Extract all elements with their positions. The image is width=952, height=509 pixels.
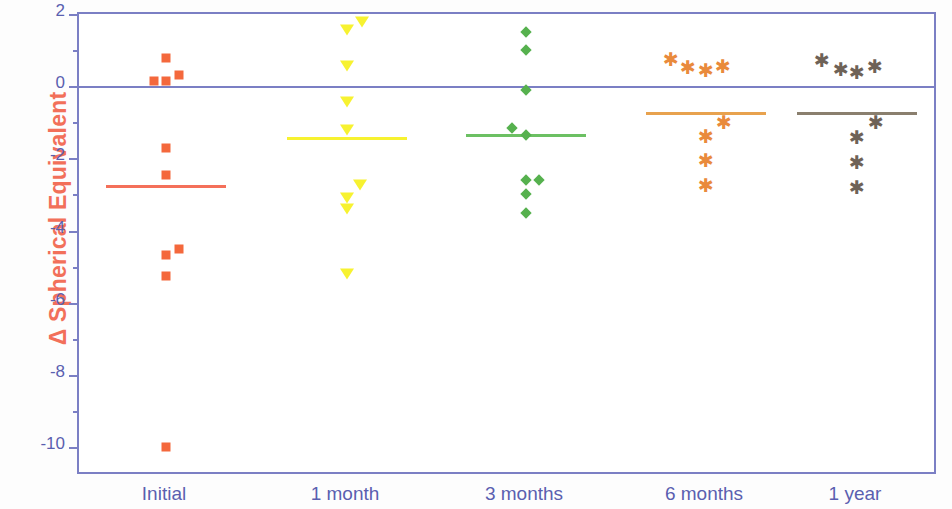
x-axis-category-label: 1 year: [829, 483, 882, 505]
data-point-marker: ✱: [698, 64, 714, 76]
data-point-marker: ✱: [868, 116, 884, 128]
y-axis-tick-minor: [73, 339, 79, 341]
plot-area: ✱✱✱✱✱✱✱✱✱✱✱✱✱✱✱✱: [77, 12, 936, 474]
data-point-marker: [162, 251, 171, 260]
data-point-marker: ✱: [715, 60, 731, 72]
data-point-marker: [162, 170, 171, 179]
y-axis-tick-label: -4: [5, 218, 65, 238]
data-point-marker: ✱: [698, 179, 714, 191]
y-axis-tick-minor: [73, 50, 79, 52]
data-point-marker: [355, 16, 369, 27]
data-point-marker: [340, 97, 354, 108]
data-point-marker: ✱: [849, 181, 865, 193]
data-point-marker: [520, 174, 531, 185]
data-point-marker: ✱: [833, 63, 849, 75]
data-point-marker: ✱: [663, 53, 679, 65]
data-point-marker: [162, 271, 171, 280]
data-point-marker: [340, 61, 354, 72]
y-axis-tick-major: [69, 303, 79, 305]
data-point-marker: [150, 76, 159, 85]
data-point-marker: [520, 207, 531, 218]
y-axis-tick-label: 2: [5, 1, 65, 21]
y-axis-tick-major: [69, 14, 79, 16]
y-axis-tick-major: [69, 158, 79, 160]
y-axis-tick-label: -8: [5, 362, 65, 382]
y-axis-tick-minor: [73, 122, 79, 124]
data-point-marker: ✱: [849, 156, 865, 168]
data-point-marker: [340, 193, 354, 204]
data-point-marker: [340, 203, 354, 214]
mean-line: [646, 112, 766, 115]
data-point-marker: ✱: [680, 61, 696, 73]
mean-line: [797, 112, 917, 115]
x-axis-category-label: 3 months: [485, 483, 563, 505]
y-axis-tick-major: [69, 375, 79, 377]
mean-line: [466, 134, 586, 137]
y-axis-tick-major: [69, 231, 79, 233]
y-axis-tick-label: -10: [5, 434, 65, 454]
data-point-marker: ✱: [716, 116, 732, 128]
data-point-marker: ✱: [698, 154, 714, 166]
data-point-marker: [340, 268, 354, 279]
data-point-marker: ✱: [867, 60, 883, 72]
data-point-marker: ✱: [849, 131, 865, 143]
data-point-marker: ✱: [814, 54, 830, 66]
mean-line: [287, 137, 407, 140]
y-axis-tick-label: -6: [5, 290, 65, 310]
x-axis-category-label: Initial: [142, 483, 186, 505]
data-point-marker: [520, 44, 531, 55]
data-point-marker: [340, 124, 354, 135]
data-point-marker: [520, 189, 531, 200]
data-point-marker: ✱: [698, 130, 714, 142]
x-axis-category-label: 1 month: [311, 483, 380, 505]
y-axis-tick-minor: [73, 411, 79, 413]
chart-figure: Δ Spherical Equivalent 20-2-4-6-8-10 Ini…: [0, 0, 952, 509]
data-point-marker: [175, 70, 184, 79]
x-axis-category-label: 6 months: [665, 483, 743, 505]
data-point-marker: [506, 122, 517, 133]
y-axis-tick-label: 0: [5, 73, 65, 93]
data-point-marker: [353, 180, 367, 191]
y-axis-tick-minor: [73, 267, 79, 269]
data-point-marker: [520, 26, 531, 37]
y-axis-tick-major: [69, 86, 79, 88]
data-point-marker: [162, 143, 171, 152]
data-point-marker: [175, 244, 184, 253]
y-axis-tick-label: -2: [5, 145, 65, 165]
data-point-marker: [162, 443, 171, 452]
data-point-marker: [340, 25, 354, 36]
zero-reference-line: [79, 86, 934, 88]
mean-line: [106, 185, 226, 188]
data-point-marker: [162, 54, 171, 63]
y-axis-tick-major: [69, 447, 79, 449]
y-axis-tick-minor: [73, 194, 79, 196]
data-point-marker: [533, 174, 544, 185]
data-point-marker: [162, 76, 171, 85]
data-point-marker: ✱: [849, 66, 865, 78]
